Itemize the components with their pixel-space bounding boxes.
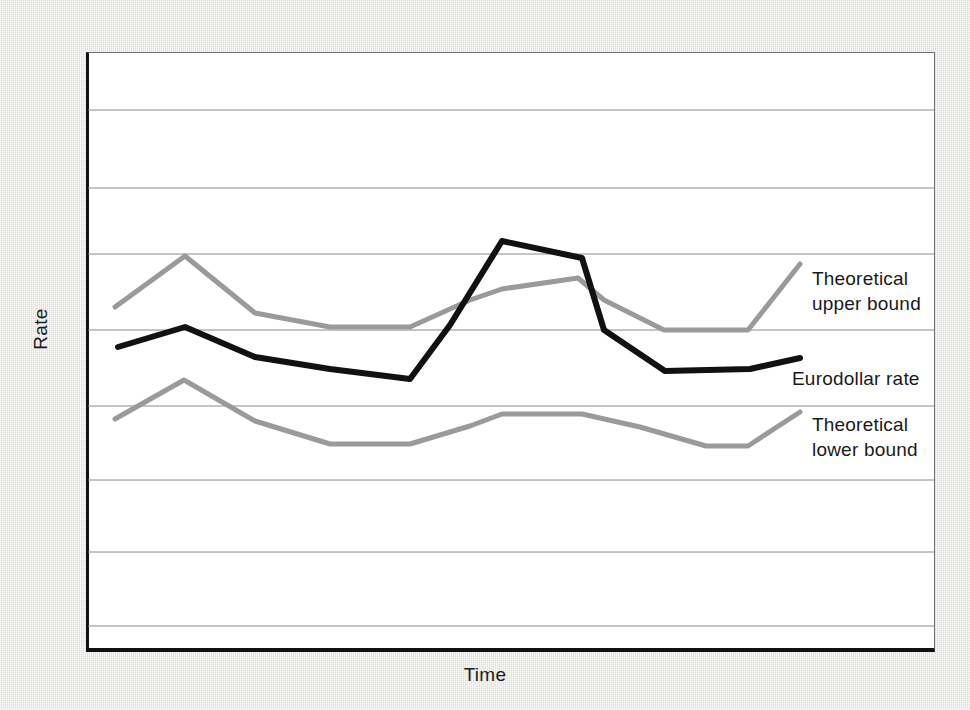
series-label-eurodollar-rate: Eurodollar rate [792, 366, 920, 391]
series-line-theoretical-upper-bound [115, 256, 800, 330]
chart-canvas [0, 0, 970, 710]
x-axis-title: Time [0, 664, 970, 686]
figure-container: Rate Time Theoretical upper bound Eurodo… [0, 0, 970, 710]
series-label-theoretical-upper-bound: Theoretical upper bound [812, 266, 921, 316]
y-axis-title: Rate [30, 286, 52, 372]
series-label-theoretical-lower-bound: Theoretical lower bound [812, 412, 918, 462]
series-line-theoretical-lower-bound [115, 380, 800, 446]
series-line-eurodollar-rate [118, 241, 800, 379]
